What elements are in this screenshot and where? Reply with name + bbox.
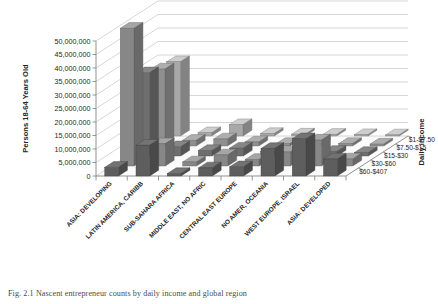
bar-7-series-5 (292, 133, 315, 176)
x-axis-category-label: MIDDLE EAST, NO AFRIC (147, 179, 207, 239)
bar-front-face (292, 139, 306, 176)
x-axis-category-label: LATIN AMERICA, CARIBB (84, 179, 145, 240)
x-axis-category-label: CENTRAL EAST EUROPE (178, 179, 239, 240)
figure-caption: Fig. 2.1 Nascent entrepreneur counts by … (8, 289, 438, 298)
bar-side-face (150, 139, 159, 176)
x-axis-category-label: WEST EUROPE, ISRAEL (243, 180, 301, 238)
figure-container: 50,000,00045,000,00040,000,00035,000,000… (0, 0, 438, 304)
legend-label-4: $30-$60 (372, 160, 397, 167)
y-axis-tick-label: 45,000,000 (55, 50, 91, 59)
z-axis-title: Daily income (417, 119, 426, 166)
y-axis-tick-label: 5,000,000 (59, 158, 91, 167)
bar-front-face (105, 167, 119, 176)
bar-front-face (199, 168, 213, 176)
bar-6-series-5 (261, 143, 284, 176)
bar-front-face (136, 145, 150, 176)
bar-front-face (370, 144, 384, 146)
y-axis-title: Persons 18-64 Years Old (21, 64, 30, 153)
bar-front-face (183, 162, 197, 166)
legend-label-3: $15-$30 (384, 152, 409, 159)
bar-front-face (198, 151, 212, 156)
bar-front-face (386, 135, 400, 136)
bar-side-face (275, 143, 284, 176)
bar-front-face (354, 135, 368, 136)
y-axis-tick-label: 35,000,000 (55, 77, 91, 86)
bar-front-face (324, 159, 338, 176)
bar-front-face (261, 134, 275, 136)
y-axis-tick-label: 50,000,000 (55, 37, 91, 46)
y-axis-tick-label: 0 (87, 172, 91, 181)
y-axis-tick-label: 40,000,000 (55, 64, 91, 73)
bar-front-face (261, 148, 275, 176)
legend-label-5: $60-$407 (359, 168, 387, 175)
bar-side-face (165, 63, 174, 146)
bar-front-face (120, 28, 134, 166)
y-axis-tick-label: 15,000,000 (55, 131, 91, 140)
bar-side-face (306, 133, 315, 176)
y-axis-tick-label: 20,000,000 (55, 118, 91, 127)
3d-bar-chart: 50,000,00045,000,00040,000,00035,000,000… (0, 0, 438, 290)
bar-front-face (230, 167, 244, 176)
y-axis-tick-label: 10,000,000 (55, 145, 91, 154)
bar-2-series-5 (136, 139, 159, 176)
y-axis-tick-label: 25,000,000 (55, 104, 91, 113)
bar-8-series-5 (324, 153, 347, 176)
bar-front-face (167, 174, 181, 176)
bar-side-face (181, 56, 190, 136)
y-axis-tick-label: 30,000,000 (55, 91, 91, 100)
